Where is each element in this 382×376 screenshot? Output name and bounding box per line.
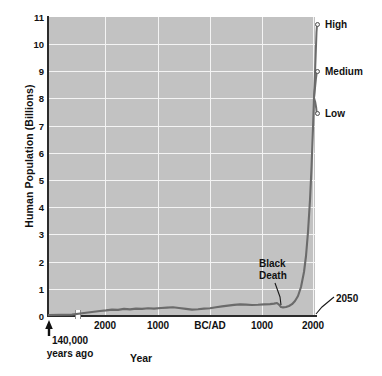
projection-low-dot: [315, 111, 320, 116]
year-2050-leader-line: [316, 297, 334, 314]
origin-annotation: 140,000 years ago: [34, 334, 106, 360]
black-death-annotation: Black Death: [259, 258, 287, 281]
projection-medium-label: Medium: [325, 66, 363, 77]
origin-line2: years ago: [47, 348, 94, 359]
population-curve-svg: [0, 0, 382, 376]
projection-high-dot: [315, 22, 320, 27]
projection-high-label: High: [325, 19, 347, 30]
black-death-leader-line: [275, 283, 281, 305]
year-2050-annotation: 2050: [336, 293, 358, 304]
population-curve: [49, 98, 314, 315]
chart-figure: 11 10 9 8 7 6 5 4 3 2 1 0 2000 1000 BC/A…: [0, 0, 382, 376]
projection-low-label: Low: [325, 108, 345, 119]
origin-line1: 140,000: [52, 335, 88, 346]
projection-medium-dot: [315, 69, 320, 74]
black-death-line2: Death: [259, 270, 287, 281]
black-death-line1: Black: [259, 258, 286, 269]
